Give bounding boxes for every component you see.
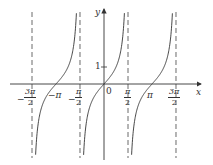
y-axis-label: y <box>95 8 100 17</box>
x-axis-label: x <box>196 88 201 97</box>
y-tick-label-1: 1 <box>95 62 101 71</box>
x-tick-label-pi-2: π 2 <box>124 88 131 107</box>
x-tick-label-3pi-2: 3π 2 <box>168 88 180 107</box>
x-tick-label-neg-pi: −π <box>48 91 61 100</box>
origin-label: 0 <box>106 87 112 96</box>
plot-area <box>0 0 213 165</box>
x-tick-label-neg-3pi-2: 3π 2 <box>24 88 36 107</box>
x-tick-label-pi: π <box>147 91 153 100</box>
x-tick-label-neg-pi-2: π 2 <box>75 88 82 107</box>
tangent-graph: y x 1 0 −π π − 3π 2 − π 2 π 2 3π 2 <box>0 0 213 165</box>
